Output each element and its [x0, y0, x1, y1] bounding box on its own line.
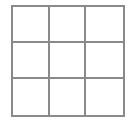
board-cell-r2c2[interactable]	[50, 43, 87, 79]
board-cell-r1c3[interactable]	[86, 7, 123, 43]
board-cell-r2c1[interactable]	[13, 43, 50, 79]
board-cell-r1c2[interactable]	[50, 7, 87, 43]
board-cell-r1c1[interactable]	[13, 7, 50, 43]
board-cell-r2c3[interactable]	[86, 43, 123, 79]
tic-tac-toe-board	[11, 5, 125, 117]
board-cell-r3c2[interactable]	[50, 79, 87, 115]
board-cell-r3c1[interactable]	[13, 79, 50, 115]
board-cell-r3c3[interactable]	[86, 79, 123, 115]
